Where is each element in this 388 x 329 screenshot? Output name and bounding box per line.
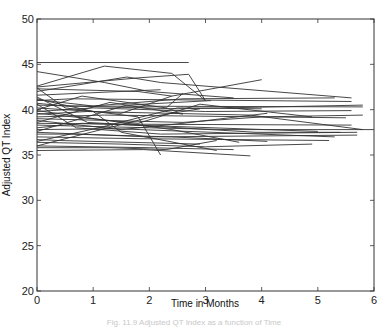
axes-box	[37, 19, 374, 291]
chart: 012345620253035404550 Time in Months Adj…	[0, 0, 388, 329]
y-tick-label: 20	[22, 285, 34, 297]
axis-ticks: 012345620253035404550	[22, 13, 377, 306]
series-line	[37, 112, 363, 130]
series-line	[37, 140, 200, 145]
x-tick-label: 0	[34, 294, 40, 306]
y-tick-label: 30	[22, 194, 34, 206]
y-tick-label: 35	[22, 149, 34, 161]
x-tick-label: 2	[146, 294, 152, 306]
y-tick-label: 40	[22, 104, 34, 116]
y-tick-label: 45	[22, 58, 34, 70]
series-line	[37, 150, 250, 156]
x-axis-label: Time in Months	[171, 298, 239, 309]
y-tick-label: 25	[22, 240, 34, 252]
data-lines	[37, 63, 374, 156]
y-tick-label: 50	[22, 13, 34, 25]
y-axis-label: Adjusted QT Index	[1, 114, 12, 197]
x-tick-label: 5	[315, 294, 321, 306]
x-tick-label: 6	[371, 294, 377, 306]
figure-caption: Fig. 11.9 Adjusted QT Index as a functio…	[0, 318, 388, 327]
x-tick-label: 1	[90, 294, 96, 306]
x-tick-label: 4	[259, 294, 265, 306]
